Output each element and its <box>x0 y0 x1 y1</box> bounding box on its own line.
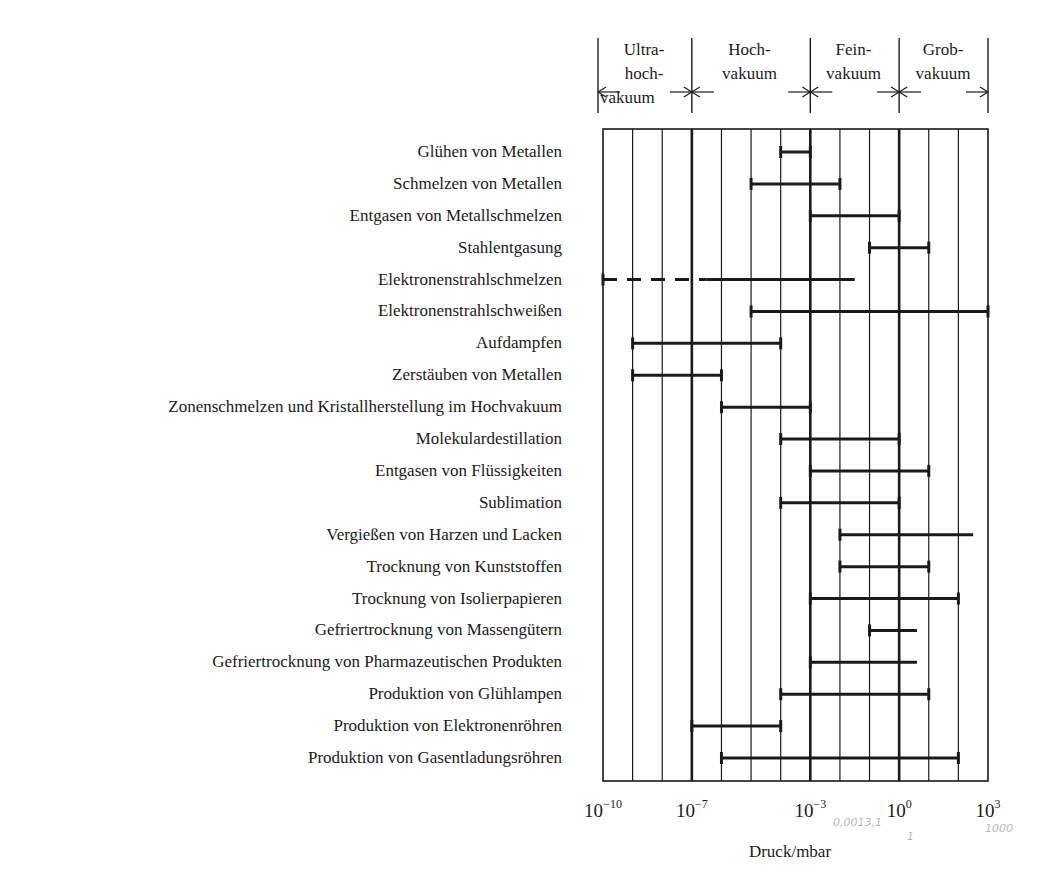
arrow-head-icon <box>810 87 818 92</box>
arrow-head-icon <box>692 92 700 97</box>
row-label: Produktion von Gasentladungsröhren <box>308 748 562 768</box>
row-label: Sublimation <box>479 493 562 513</box>
region-header-text: Ultra- <box>598 39 690 61</box>
row-label: Aufdampfen <box>476 333 562 353</box>
row-label: Trocknung von Kunststoffen <box>366 557 562 577</box>
row-label: Trocknung von Isolierpapieren <box>352 589 562 609</box>
row-label: Entgasen von Flüssigkeiten <box>375 461 562 481</box>
arrow-head-icon <box>810 92 818 97</box>
row-label: Entgasen von Metallschmelzen <box>350 206 562 226</box>
region-header-text: vakuum <box>600 87 692 109</box>
region-header-text: Fein- <box>809 39 898 61</box>
row-label: Produktion von Glühlampen <box>368 684 562 704</box>
row-label: Vergießen von Harzen und Lacken <box>326 525 562 545</box>
chart-frame <box>603 129 988 781</box>
row-label: Gefriertrocknung von Pharmazeutischen Pr… <box>212 652 562 672</box>
arrow-head-icon <box>891 87 899 92</box>
arrow-head-icon <box>802 92 810 97</box>
arrow-head-icon <box>802 87 810 92</box>
arrow-head-icon <box>899 92 907 97</box>
pencil-annotation-3: 1000 <box>985 822 1013 835</box>
row-label: Elektronenstrahlschweißen <box>378 301 562 321</box>
region-header-text: vakuum <box>898 63 988 85</box>
x-axis-label: Druck/mbar <box>749 842 831 862</box>
arrow-head-icon <box>980 87 988 92</box>
row-label: Zonenschmelzen und Kristallherstellung i… <box>168 397 562 417</box>
pencil-annotation-1: 0,0013,1 <box>833 816 882 829</box>
region-header-text: hoch- <box>598 63 690 85</box>
arrow-head-icon <box>980 92 988 97</box>
region-header-text: vakuum <box>809 63 898 85</box>
arrow-head-icon <box>899 87 907 92</box>
region-header-text: vakuum <box>690 63 809 85</box>
x-tick-label: 103 <box>976 800 1001 822</box>
x-tick-label: 100 <box>887 800 912 822</box>
x-tick-label: 10−7 <box>676 800 708 822</box>
row-label: Schmelzen von Metallen <box>393 174 562 194</box>
row-label: Elektronenstrahlschmelzen <box>378 270 562 290</box>
x-tick-label: 10−10 <box>584 800 622 822</box>
region-header-text: Grob- <box>898 39 988 61</box>
row-label: Produktion von Elektronenröhren <box>333 716 562 736</box>
arrow-head-icon <box>891 92 899 97</box>
pencil-annotation-2: 1 <box>907 830 914 843</box>
arrow-head-icon <box>692 87 700 92</box>
row-label: Molekulardestillation <box>416 429 562 449</box>
row-label: Zerstäuben von Metallen <box>392 365 562 385</box>
region-header-text: Hoch- <box>690 39 809 61</box>
x-tick-label: 10−3 <box>794 800 826 822</box>
row-label: Stahlentgasung <box>458 238 562 258</box>
row-label: Gefriertrocknung von Massengütern <box>315 620 562 640</box>
row-label: Glühen von Metallen <box>418 142 562 162</box>
vacuum-application-chart: Glühen von MetallenSchmelzen von Metalle… <box>0 0 1045 873</box>
